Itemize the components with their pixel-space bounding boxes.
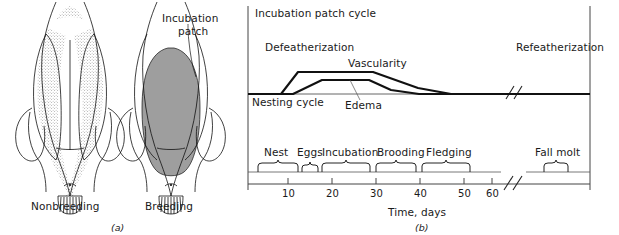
left-leg [117,108,146,161]
figure-root: Incubation patch Nonbreeding Breeding (a… [0,0,619,235]
panel-b-timeline-chart: Incubation patch cycle Defeatherization … [238,0,619,235]
breeding-label: Breeding [145,200,193,212]
incubation-patch-cycle-title: Incubation patch cycle [255,7,376,19]
stage-label-nest: Nest [264,146,288,158]
stage-label-brooding: Brooding [377,146,425,158]
nonbreeding-label: Nonbreeding [31,200,100,212]
bracket-nest [258,160,298,172]
bracket-fall-molt [544,160,568,172]
tick-label-40: 40 [414,188,427,199]
nesting-cycle-title: Nesting cycle [252,96,324,108]
divider-break-mark-1 [506,86,514,99]
incubation-patch-annotation-line1: Incubation [162,12,218,24]
edema-label: Edema [345,99,382,111]
x-axis-title: Time, days [388,206,446,218]
tick-label-10: 10 [282,188,295,199]
right-leg [196,108,225,161]
tick-label-30: 30 [370,188,383,199]
defeatherization-label: Defeatherization [265,41,354,53]
tick-label-50: 50 [458,188,471,199]
divider-break-mark-2 [514,86,522,99]
bracket-incubation [322,160,370,172]
stage-label-fledging: Fledging [426,146,472,158]
axis-ticks [288,178,492,184]
panel-a-bird-diagrams: Incubation patch Nonbreeding Breeding (a… [0,0,238,235]
incubation-patch-shape [142,48,200,176]
tick-label-60: 60 [486,188,499,199]
edema-leader-line [350,80,360,100]
incubation-cycle-chart-svg [238,0,619,235]
edema-curve [248,80,590,94]
incubation-patch-annotation-line2: patch [178,25,208,37]
stage-label-incubation: Incubation [322,146,378,158]
stage-brackets [258,160,568,172]
refeatherization-label: Refeatherization [516,41,604,53]
bracket-fledging [422,160,470,172]
axis-break-mark-1 [504,176,513,190]
bracket-eggs [302,162,318,172]
tick-label-20: 20 [326,188,339,199]
stage-label-fall-molt: Fall molt [535,146,580,158]
panel-a-caption: (a) [111,222,124,233]
bracket-brooding [376,160,416,172]
vascularity-label: Vascularity [348,57,407,69]
panel-b-caption: (b) [415,222,428,233]
breeding-bird [117,2,226,214]
axis-break-mark-2 [513,176,522,190]
stage-label-eggs: Eggs [297,146,323,158]
nonbreeding-bird [16,2,125,214]
